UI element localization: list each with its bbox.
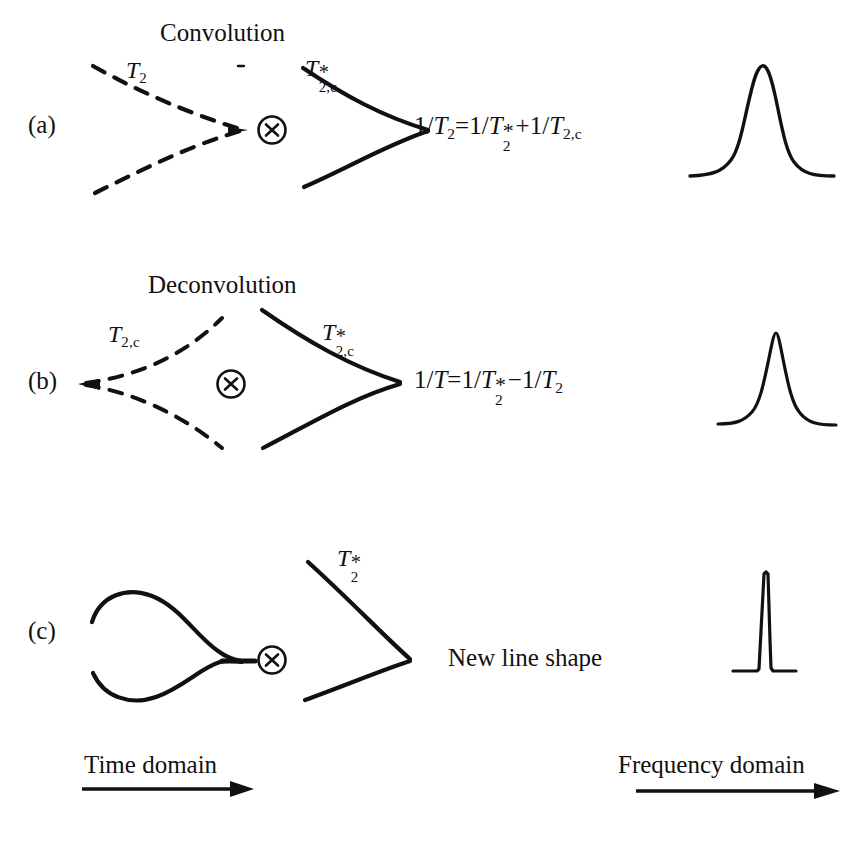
- panel-a-frequency-peak-graphic: [690, 66, 834, 176]
- panel-b-dashed-label-sub: 2,c: [121, 334, 139, 350]
- panel-c-letter: (c): [28, 618, 56, 643]
- panel-c-solid-curve-label: T * 2: [337, 546, 372, 570]
- panel-a-solid-label-sub: 2,c: [319, 80, 337, 95]
- panel-c-convolution-operator-icon: [259, 647, 286, 674]
- panel-b-convolution-operator-icon: [218, 371, 245, 398]
- panel-a-eq-term1-base: T: [489, 112, 503, 139]
- panel-c-echo-envelope-upper: [92, 592, 242, 661]
- panel-b-solid-curve-label: T * 2,c: [322, 320, 357, 344]
- figure-root: Convolution (a) T2 T * 2,c 1/T2=1/T * 2 …: [0, 0, 866, 841]
- panel-b-eq-relation: =: [447, 366, 461, 393]
- panel-a-section-title: Convolution: [160, 20, 285, 45]
- panel-c-solid-label-base: T: [337, 545, 350, 571]
- panel-c-frequency-peak-graphic: [733, 572, 796, 671]
- panel-a-solid-curve-label: T * 2,c: [305, 56, 340, 80]
- panel-a-dashed-curve-label: T2: [126, 58, 147, 86]
- panel-a-eq-term2-sub: 2,c: [563, 125, 582, 142]
- panel-b-eq-term2-base: T: [541, 366, 555, 393]
- panel-b-dashed-envelope-lower: [86, 385, 222, 448]
- panel-b-solid-envelope-lower: [263, 384, 400, 448]
- frequency-domain-axis-arrow: [636, 783, 840, 799]
- panel-b-eq-term2-sub: 2: [555, 379, 563, 396]
- panel-a-solid-envelope-lower: [304, 131, 428, 187]
- panel-a-letter: (a): [28, 112, 56, 137]
- panel-b-eq-op: −: [508, 366, 522, 393]
- panel-b-dashed-envelope-upper: [86, 318, 222, 383]
- panel-c-solid-envelope-upper: [308, 562, 410, 659]
- panel-c-solid-label-sub: 2: [351, 570, 359, 585]
- panel-a-eq-relation: =: [455, 112, 469, 139]
- panel-a-dashed-envelope-lower: [95, 131, 240, 193]
- panel-b-frequency-peak-graphic: [718, 333, 836, 425]
- panel-a-eq-lhs-base: T: [433, 112, 447, 139]
- panel-b-eq-term1-sub: 2: [495, 392, 503, 408]
- panel-a-eq-lhs-sub: 2: [447, 125, 455, 142]
- panel-c-time-domain-graphics: [92, 562, 410, 700]
- panel-b-letter: (b): [28, 368, 57, 393]
- panel-a-solid-label-base: T: [305, 55, 318, 81]
- panel-b-solid-label-base: T: [322, 319, 335, 345]
- panel-a-dashed-label-sub: 2: [139, 70, 147, 86]
- panel-b-equation: 1/T=1/T * 2 −1/T2: [414, 367, 563, 395]
- panel-b-dashed-label-base: T: [108, 321, 121, 347]
- panel-a-dashed-label-base: T: [126, 57, 139, 83]
- panel-c-echo-envelope-lower: [93, 661, 242, 701]
- panel-a-eq-op: +: [516, 112, 530, 139]
- panel-b-solid-label-sub: 2,c: [336, 344, 354, 359]
- panel-a-equation: 1/T2=1/T * 2 +1/T2,c: [414, 113, 582, 141]
- frequency-domain-axis-label: Frequency domain: [618, 752, 805, 777]
- panel-c-result-text: New line shape: [448, 645, 602, 670]
- time-domain-axis-label: Time domain: [84, 752, 217, 777]
- panel-b-dashed-curve-label: T2,c: [108, 322, 140, 350]
- panel-b-eq-lhs-base: T: [433, 366, 447, 393]
- panel-a-dashed-envelope-upper: [93, 66, 240, 129]
- panel-b-eq-term1-base: T: [481, 366, 495, 393]
- panel-a-eq-term1-sub: 2: [503, 138, 511, 154]
- panel-a-convolution-operator-icon: [259, 117, 286, 144]
- panel-c-solid-envelope-lower: [305, 661, 410, 700]
- panel-a-eq-term2-base: T: [549, 112, 563, 139]
- time-domain-axis-arrow: [82, 781, 254, 797]
- panel-b-section-title: Deconvolution: [148, 272, 297, 297]
